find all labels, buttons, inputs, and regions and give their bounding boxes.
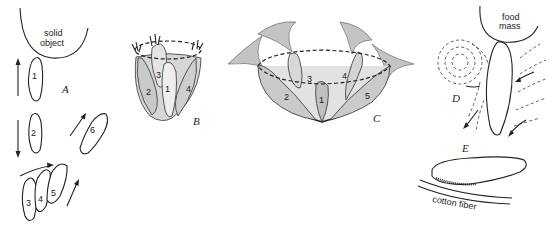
cell-b-4-number: 4 [186, 84, 191, 94]
cilia-tuft [132, 34, 203, 52]
cell-c-3-number: 3 [307, 74, 312, 84]
panel-c: 1 2 3 4 5 C [228, 22, 414, 124]
cilia-tuft-center-left [258, 22, 296, 52]
biology-figure: solid object 1 A 2 6 [0, 0, 554, 231]
cell-b-1-number: 1 [165, 84, 170, 94]
panel-c-letter: C [373, 112, 381, 124]
cell-b-2-number: 2 [146, 87, 151, 97]
cell-4-number: 4 [38, 194, 43, 204]
cell-3-number: 3 [26, 198, 31, 208]
arrow-diagonal-icon [67, 179, 79, 206]
cell-d [486, 42, 512, 135]
cell-6-number: 6 [90, 125, 95, 135]
cilia-tuft-center-right [340, 22, 372, 54]
panel-d: food mass D [438, 6, 548, 137]
arrow-diagonal-icon [70, 113, 86, 136]
solid-object-label-line2: object [40, 38, 65, 48]
cell-c-4-number: 4 [342, 71, 347, 81]
panel-d-letter: D [451, 92, 460, 104]
arrow-down-icon [16, 120, 21, 158]
panel-b: 1 2 3 4 B [132, 34, 203, 127]
cell-b-3-number: 3 [156, 70, 161, 80]
arrow-up-icon [16, 58, 21, 96]
panel-b-letter: B [193, 115, 200, 127]
panel-a-letter: A [61, 83, 69, 95]
panel-e-letter: E [461, 142, 469, 154]
vortex-circles [438, 40, 482, 84]
cell-c-2-number: 2 [284, 92, 289, 102]
cell-c-5-number: 5 [365, 91, 370, 101]
panel-e: E cotton fiber [418, 142, 526, 212]
solid-object-label-line1: solid [44, 28, 63, 38]
cell-1-number: 1 [32, 71, 37, 81]
cell-c-1-number: 1 [319, 95, 324, 105]
cilia-tuft-left [228, 36, 262, 66]
cell-5-number: 5 [51, 188, 56, 198]
panel-a: solid object 1 A 2 6 [16, 8, 108, 221]
food-mass-label-line2: mass [499, 21, 521, 31]
cell-2-number: 2 [31, 128, 36, 138]
cell-e [432, 157, 526, 184]
